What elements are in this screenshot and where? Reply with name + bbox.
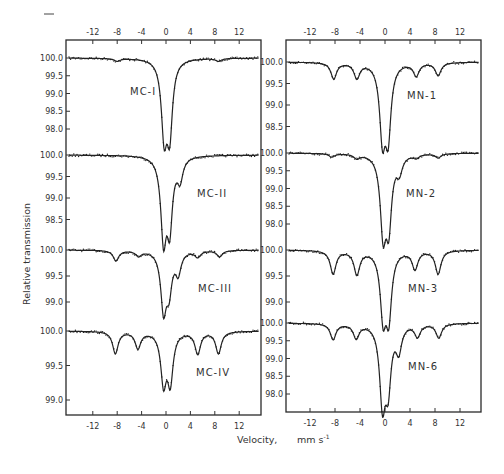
right-spectra: 100.099.599.098.5MN-1100.099.599.098.598… xyxy=(260,58,479,417)
data-point xyxy=(372,72,373,73)
data-point xyxy=(252,330,253,331)
data-point xyxy=(235,155,236,156)
data-point xyxy=(257,329,258,330)
data-point xyxy=(233,251,234,252)
data-point xyxy=(84,249,85,250)
data-point xyxy=(84,58,85,59)
data-point xyxy=(254,330,255,331)
spectrum-mn-6: 100.099.599.098.598.0MN-6 xyxy=(260,319,479,417)
data-point xyxy=(332,337,333,338)
data-point xyxy=(184,64,185,65)
data-point xyxy=(316,153,317,154)
data-point xyxy=(477,322,478,323)
data-point xyxy=(295,323,296,324)
data-point xyxy=(96,57,97,58)
data-point xyxy=(463,250,464,251)
data-point xyxy=(236,332,237,333)
data-point xyxy=(447,63,448,64)
data-point xyxy=(121,156,122,157)
data-point xyxy=(164,150,165,151)
data-point xyxy=(73,153,74,154)
data-point xyxy=(78,57,79,58)
data-point xyxy=(397,74,398,75)
y-tick-label: 99.0 xyxy=(45,298,63,307)
data-point xyxy=(204,337,205,338)
data-point xyxy=(432,257,433,258)
x-tick-label: -4 xyxy=(138,28,146,37)
data-point xyxy=(442,260,443,261)
data-point xyxy=(72,249,73,250)
data-point xyxy=(437,336,438,337)
x-tick-label: 12 xyxy=(234,422,244,431)
data-point xyxy=(388,150,389,151)
y-tick-label: 99.0 xyxy=(265,101,283,110)
data-point xyxy=(357,158,358,159)
data-point xyxy=(137,157,138,158)
data-point xyxy=(248,154,249,155)
x-tick-label: 0 xyxy=(163,422,168,431)
data-point xyxy=(320,63,321,64)
data-point xyxy=(86,249,87,250)
data-point xyxy=(386,239,387,240)
data-point xyxy=(338,329,339,330)
data-point xyxy=(292,62,293,63)
data-point xyxy=(243,250,244,251)
data-point xyxy=(392,357,393,358)
data-point xyxy=(373,338,374,339)
data-point xyxy=(404,163,405,164)
data-point xyxy=(232,57,233,58)
y-tick-label: 99.5 xyxy=(45,362,63,371)
data-point xyxy=(452,324,453,325)
x-tick-label: 0 xyxy=(382,28,387,37)
data-point xyxy=(415,158,416,159)
data-point xyxy=(357,78,358,79)
right-panel: -12-8-404812 -12-8-404812 100.099.599.09… xyxy=(260,28,481,428)
data-point xyxy=(97,251,98,252)
data-point xyxy=(132,59,133,60)
data-point xyxy=(288,62,289,63)
x-tick-label: 0 xyxy=(163,28,168,37)
data-point xyxy=(450,251,451,252)
data-point xyxy=(378,364,379,365)
data-point xyxy=(399,356,400,357)
data-point xyxy=(333,155,334,156)
data-point xyxy=(288,153,289,154)
data-point xyxy=(439,271,440,272)
data-point xyxy=(388,404,389,405)
data-point xyxy=(312,252,313,253)
data-point xyxy=(418,71,419,72)
data-point xyxy=(132,156,133,157)
data-point xyxy=(362,330,363,331)
data-point xyxy=(442,154,443,155)
data-point xyxy=(424,154,425,155)
data-point xyxy=(214,341,215,342)
data-point xyxy=(180,66,181,67)
data-point xyxy=(78,250,79,251)
data-point xyxy=(415,76,416,77)
data-point xyxy=(327,257,328,258)
data-point xyxy=(230,333,231,334)
fit-curve xyxy=(69,58,259,151)
data-point xyxy=(472,323,473,324)
data-point xyxy=(110,338,111,339)
data-point xyxy=(292,322,293,323)
data-point xyxy=(365,67,366,68)
data-point xyxy=(249,332,250,333)
data-point xyxy=(241,155,242,156)
data-point xyxy=(468,61,469,62)
data-point xyxy=(452,250,453,251)
data-point xyxy=(303,62,304,63)
data-point xyxy=(320,253,321,254)
data-point xyxy=(458,252,459,253)
data-point xyxy=(340,66,341,67)
data-point xyxy=(238,249,239,250)
data-point xyxy=(148,336,149,337)
data-point xyxy=(328,68,329,69)
data-point xyxy=(389,129,390,130)
data-point xyxy=(235,331,236,332)
data-point xyxy=(362,69,363,70)
data-point xyxy=(192,159,193,160)
data-point xyxy=(324,253,325,254)
data-point xyxy=(292,152,293,153)
y-tick-label: 100.0 xyxy=(40,151,63,160)
